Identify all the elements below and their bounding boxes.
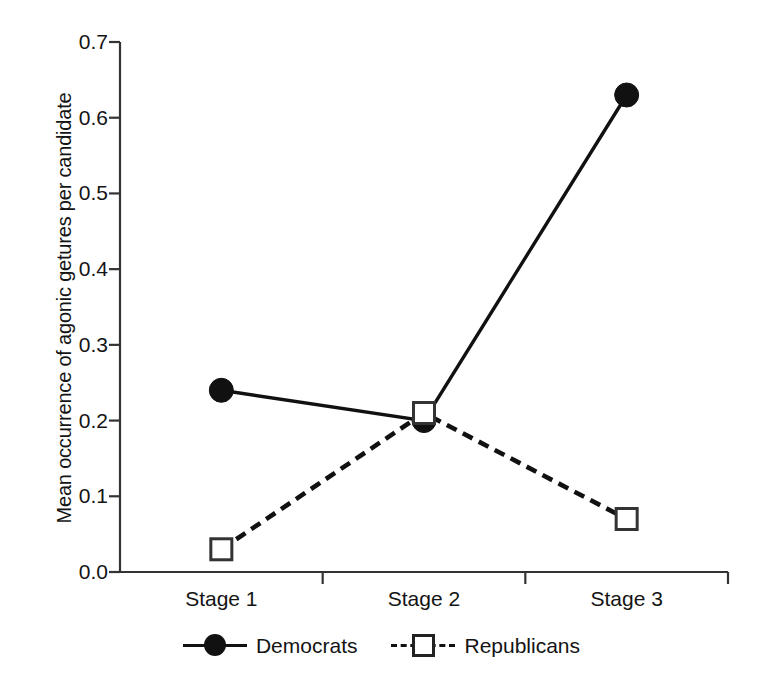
- series-line-democrats: [221, 95, 626, 421]
- data-series-group: [209, 83, 638, 560]
- legend-label: Republicans: [464, 635, 580, 656]
- legend-key-democrats: [183, 634, 247, 656]
- data-point-republicans-3: [616, 509, 637, 530]
- plot-area: [0, 0, 763, 678]
- legend-key-republicans: [391, 634, 455, 656]
- data-point-republicans-2: [414, 403, 435, 424]
- legend-label: Democrats: [256, 635, 358, 656]
- chart-figure: Mean occurrence of agonic getures per ca…: [0, 0, 763, 678]
- chart-legend: DemocratsRepublicans: [0, 628, 763, 662]
- data-point-republicans-1: [211, 539, 232, 560]
- series-line-republicans: [221, 413, 626, 549]
- legend-entry-republicans[interactable]: Republicans: [391, 634, 580, 656]
- data-point-democrats-1: [209, 378, 233, 402]
- open-square-icon: [412, 634, 435, 657]
- axes-lines: [109, 42, 728, 584]
- filled-circle-icon: [204, 634, 226, 656]
- legend-entry-democrats[interactable]: Democrats: [183, 634, 358, 656]
- data-point-democrats-3: [615, 83, 639, 107]
